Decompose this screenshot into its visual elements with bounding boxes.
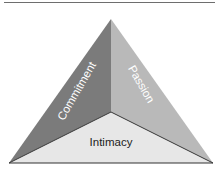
love-triangle-diagram: Commitment Passion Intimacy bbox=[0, 0, 223, 170]
intimacy-label: Intimacy bbox=[90, 136, 133, 148]
